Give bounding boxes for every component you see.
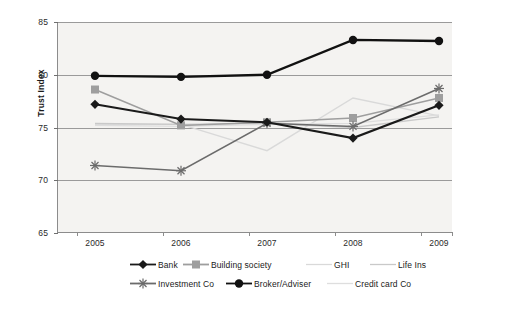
legend-item-building-society[interactable]: Building society (183, 256, 272, 273)
data-point-asterisk (90, 160, 100, 170)
data-point-circle (349, 36, 357, 44)
legend-marker-circle-icon (226, 278, 252, 289)
legend-marker-square-icon (183, 259, 209, 270)
data-point-diamond (348, 133, 357, 142)
legend-item-life-ins[interactable]: Life Ins (370, 256, 426, 273)
legend-item-broker-adviser[interactable]: Broker/Adviser (226, 275, 311, 292)
data-point-square (349, 114, 357, 122)
data-point-diamond (434, 101, 443, 110)
legend-item-credit-card-co[interactable]: Credit card Co (327, 275, 411, 292)
legend-label: Bank (158, 260, 178, 270)
legend-item-bank[interactable]: Bank (130, 256, 178, 273)
data-point-square (192, 261, 200, 269)
legend-marker-none-icon (327, 278, 353, 289)
data-point-asterisk (138, 279, 148, 289)
data-point-asterisk (348, 121, 358, 131)
legend-row-2: Investment CoBroker/AdviserCredit card C… (0, 275, 508, 292)
data-point-diamond (90, 100, 99, 109)
legend-marker-none-icon (370, 259, 396, 270)
trust-index-line-chart: Trust Index 8580757065 20052006200720082… (0, 0, 508, 309)
legend-label: Life Ins (398, 260, 426, 270)
series-line (95, 88, 439, 170)
data-point-circle (177, 73, 185, 81)
legend-label: Broker/Adviser (254, 279, 311, 289)
data-point-asterisk (176, 166, 186, 176)
legend-row-1: BankBuilding societyGHILife Ins (0, 256, 508, 273)
legend-marker-diamond-icon (130, 259, 156, 270)
legend-label: Building society (211, 260, 272, 270)
series-investment-co (90, 83, 444, 175)
data-point-circle (263, 71, 271, 79)
legend-label: GHI (334, 260, 349, 270)
legend-label: Credit card Co (355, 279, 411, 289)
legend-marker-none-icon (306, 259, 332, 270)
data-point-circle (91, 72, 99, 80)
data-point-circle (235, 279, 243, 287)
data-point-asterisk (434, 83, 444, 93)
legend-marker-asterisk-icon (130, 278, 156, 289)
series-broker-adviser (91, 36, 443, 81)
legend-label: Investment Co (158, 279, 214, 289)
legend-item-ghi[interactable]: GHI (306, 256, 349, 273)
legend-item-investment-co[interactable]: Investment Co (130, 275, 214, 292)
data-point-square (91, 86, 99, 94)
data-point-diamond (138, 260, 147, 269)
data-point-circle (435, 37, 443, 45)
